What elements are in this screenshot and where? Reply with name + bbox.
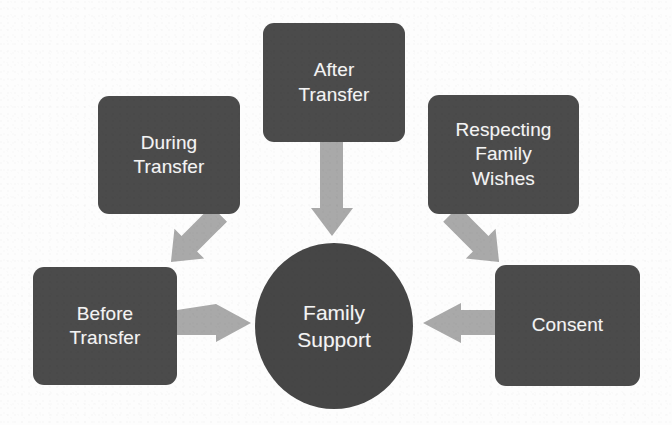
hub-family-support-label: Family Support bbox=[297, 299, 371, 354]
hub-family-support[interactable]: Family Support bbox=[255, 243, 413, 409]
arrow-after-to-hub bbox=[311, 142, 353, 236]
node-after-transfer-label: After Transfer bbox=[293, 58, 376, 107]
diagram-canvas: After Transfer During Transfer Respectin… bbox=[0, 0, 672, 425]
arrow-consent-to-hub-shape bbox=[423, 303, 500, 343]
arrow-before-to-hub bbox=[177, 304, 216, 310]
node-during-transfer-label: During Transfer bbox=[128, 131, 211, 180]
node-before-transfer-label: Before Transfer bbox=[64, 302, 147, 351]
node-consent-label: Consent bbox=[526, 313, 609, 337]
node-consent[interactable]: Consent bbox=[495, 265, 640, 386]
node-respecting-family-wishes[interactable]: Respecting Family Wishes bbox=[428, 95, 579, 214]
node-during-transfer[interactable]: During Transfer bbox=[98, 96, 240, 214]
node-before-transfer[interactable]: Before Transfer bbox=[33, 267, 177, 385]
node-after-transfer[interactable]: After Transfer bbox=[263, 23, 405, 142]
node-respecting-family-wishes-label: Respecting Family Wishes bbox=[449, 118, 557, 191]
